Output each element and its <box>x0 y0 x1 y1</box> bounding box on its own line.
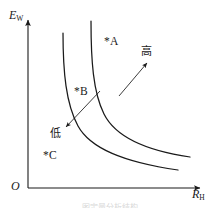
point-label-b: *B <box>74 86 88 98</box>
point-label-a: *A <box>104 36 119 48</box>
y-axis-label-subscript: W <box>16 14 23 23</box>
figure-canvas: EW RH O *A *B *C 高 低 图定量分析结构 <box>0 0 220 208</box>
high-arrow-icon <box>119 63 147 96</box>
curve-lower <box>63 33 178 170</box>
figure-caption: 图定量分析结构 <box>0 201 220 208</box>
origin-label: O <box>11 180 20 192</box>
annotation-high-label: 高 <box>141 46 152 57</box>
annotation-low-label: 低 <box>50 128 61 139</box>
y-axis-label: EW <box>9 9 23 21</box>
plot-area <box>0 0 220 208</box>
x-axis-label: RH <box>192 188 205 200</box>
point-label-c: *C <box>43 150 57 162</box>
